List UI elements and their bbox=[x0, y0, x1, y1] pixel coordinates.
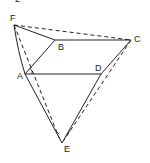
edge-FA bbox=[14, 25, 25, 74]
geometry-diagram bbox=[0, 0, 150, 163]
top-marker: 2 bbox=[15, 0, 20, 4]
edge-FC-dashed bbox=[14, 25, 131, 40]
edge-CD bbox=[101, 40, 131, 74]
edge-FB bbox=[14, 25, 55, 40]
point-label-F: F bbox=[10, 14, 16, 23]
edge-CE-dashed bbox=[64, 40, 131, 140]
angle-mark-A bbox=[30, 68, 32, 74]
point-label-D: D bbox=[95, 64, 102, 73]
point-label-C: C bbox=[134, 35, 141, 44]
point-label-A: A bbox=[17, 72, 23, 81]
point-label-B: B bbox=[58, 43, 64, 52]
point-label-E: E bbox=[64, 145, 70, 154]
edge-AB bbox=[25, 40, 55, 74]
edge-AE bbox=[25, 74, 62, 143]
